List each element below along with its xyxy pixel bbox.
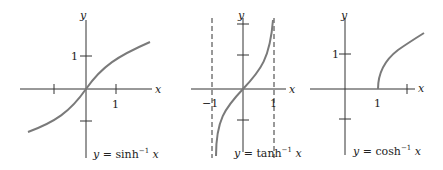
curve bbox=[378, 33, 424, 89]
y-axis-label: y bbox=[79, 9, 87, 22]
graph-sinh-inverse: y x 1 1 y = sinh−1 x bbox=[20, 9, 162, 161]
graph-cosh-inverse: y x 1 1 y = cosh−1 x bbox=[310, 9, 425, 158]
tick-label-y1: 1 bbox=[71, 50, 78, 63]
y-axis-label: y bbox=[340, 9, 348, 22]
inverse-hyperbolic-graphs: y x 1 1 y = sinh−1 x y x −1 1 y = tanh−1… bbox=[0, 0, 443, 170]
graph-tanh-inverse: y x −1 1 y = tanh−1 x bbox=[191, 9, 302, 160]
curve bbox=[216, 20, 273, 156]
tick-label-xm1: −1 bbox=[202, 97, 218, 110]
tick-label-x1: 1 bbox=[270, 97, 277, 110]
x-axis-label: x bbox=[418, 82, 425, 95]
caption: y = sinh−1 x bbox=[92, 147, 160, 161]
x-axis-label: x bbox=[155, 83, 162, 96]
tick-label-x1: 1 bbox=[374, 97, 381, 110]
tick-label-x1: 1 bbox=[112, 98, 119, 111]
tick-label-y1: 1 bbox=[332, 48, 339, 61]
caption: y = cosh−1 x bbox=[352, 144, 422, 158]
x-axis-label: x bbox=[289, 83, 296, 96]
caption: y = tanh−1 x bbox=[233, 146, 302, 160]
y-axis-label: y bbox=[237, 9, 245, 22]
